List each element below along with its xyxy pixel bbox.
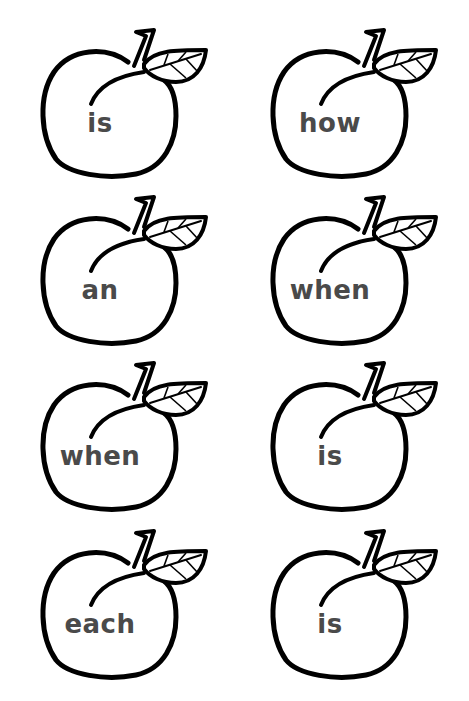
sight-word: an (36, 275, 164, 305)
peach-card: each (36, 525, 216, 685)
peach-card: when (36, 357, 216, 517)
peach-icon (266, 191, 446, 351)
sight-word: each (36, 609, 164, 639)
peach-card: an (36, 191, 216, 351)
sight-word: is (266, 441, 394, 471)
peach-icon (266, 357, 446, 517)
peach-card: is (266, 357, 446, 517)
peach-icon (36, 24, 216, 184)
peach-icon (266, 525, 446, 685)
peach-card: is (36, 24, 216, 184)
peach-card: is (266, 525, 446, 685)
sight-word: when (266, 275, 394, 305)
peach-card: how (266, 24, 446, 184)
peach-icon (36, 357, 216, 517)
peach-card: when (266, 191, 446, 351)
sight-word: is (36, 108, 164, 138)
sight-word: when (36, 441, 164, 471)
peach-icon (266, 24, 446, 184)
sight-word: how (266, 108, 394, 138)
peach-icon (36, 525, 216, 685)
sight-word: is (266, 609, 394, 639)
peach-icon (36, 191, 216, 351)
